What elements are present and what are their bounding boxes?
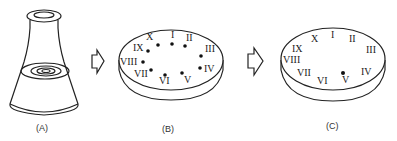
svg-text:II: II (349, 33, 356, 44)
svg-text:III: III (205, 43, 215, 54)
svg-text:I: I (331, 29, 334, 40)
panel-b-label: (B) (162, 124, 174, 134)
svg-text:IV: IV (361, 66, 372, 77)
svg-text:X: X (311, 33, 319, 44)
petri-dish-b: X I II III IV V VI VII VIII IX (B) (119, 29, 223, 134)
hollow-right-arrow-icon (92, 50, 104, 73)
svg-text:VII: VII (134, 68, 148, 79)
panel-c-label: (C) (326, 121, 339, 131)
svg-text:II: II (186, 32, 193, 43)
diagram-canvas: (A) X I II III IV V VI VII VIII IX (B) X… (0, 0, 397, 141)
svg-text:IX: IX (292, 43, 303, 54)
svg-text:IX: IX (133, 42, 144, 53)
svg-text:VI: VI (317, 75, 328, 86)
svg-text:V: V (342, 74, 350, 85)
svg-text:X: X (146, 31, 154, 42)
svg-text:VI: VI (159, 75, 170, 86)
panel-a-label: (A) (36, 123, 48, 133)
svg-text:I: I (171, 29, 174, 40)
svg-text:V: V (184, 74, 192, 85)
svg-text:VIII: VIII (120, 56, 137, 67)
svg-text:IV: IV (204, 63, 215, 74)
petri-dish-c: X I II III IV V VI VII VIII IX (C) (281, 28, 385, 131)
svg-text:VIII: VIII (283, 54, 300, 65)
flask-a: (A) (10, 10, 78, 133)
svg-text:VII: VII (297, 67, 311, 78)
hollow-right-arrow-icon (248, 48, 263, 75)
svg-text:III: III (366, 44, 376, 55)
